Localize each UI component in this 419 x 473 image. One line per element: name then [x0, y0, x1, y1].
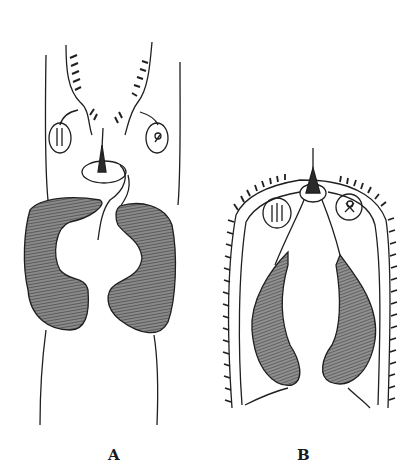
panel-label-b: B	[297, 446, 310, 464]
panel-b-glands	[252, 252, 376, 385]
panel-label-a: A	[108, 446, 120, 464]
teeth-left-icon	[70, 55, 97, 120]
panel-a-lower-body	[40, 330, 158, 425]
panel-a-gland	[24, 198, 175, 333]
panel-b-drawing	[223, 148, 397, 408]
illustration	[0, 0, 419, 473]
teeth-outer-icon	[223, 174, 397, 402]
